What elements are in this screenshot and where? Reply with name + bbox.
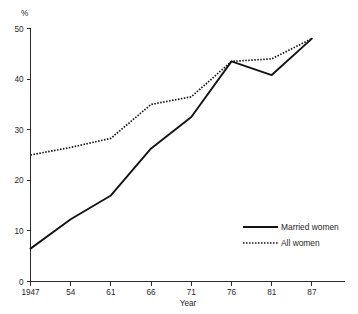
chart-container: 01020304050 194754616671768187 % Year Ma… bbox=[0, 0, 358, 314]
legend-label: Married women bbox=[281, 222, 339, 232]
plot-background bbox=[0, 0, 358, 314]
y-tick-label: 30 bbox=[14, 126, 24, 135]
x-tick-label: 76 bbox=[227, 288, 237, 297]
x-tick-label: 61 bbox=[106, 288, 116, 297]
x-tick-label: 87 bbox=[307, 288, 317, 297]
y-tick-label: 50 bbox=[14, 25, 24, 34]
y-tick-label: 10 bbox=[14, 227, 24, 236]
x-tick-label: 66 bbox=[147, 288, 157, 297]
y-tick-label: 0 bbox=[19, 278, 24, 287]
x-tick-label: 81 bbox=[267, 288, 277, 297]
y-axis-unit-label: % bbox=[21, 9, 28, 18]
y-tick-label: 20 bbox=[14, 176, 24, 185]
line-chart: 01020304050 194754616671768187 % Year Ma… bbox=[0, 0, 358, 314]
x-tick-label: 1947 bbox=[21, 288, 40, 297]
y-tick-label: 40 bbox=[14, 75, 24, 84]
legend-label: All women bbox=[281, 238, 320, 248]
x-tick-label: 71 bbox=[187, 288, 197, 297]
x-tick-label: 54 bbox=[66, 288, 76, 297]
x-axis-title: Year bbox=[180, 299, 197, 308]
